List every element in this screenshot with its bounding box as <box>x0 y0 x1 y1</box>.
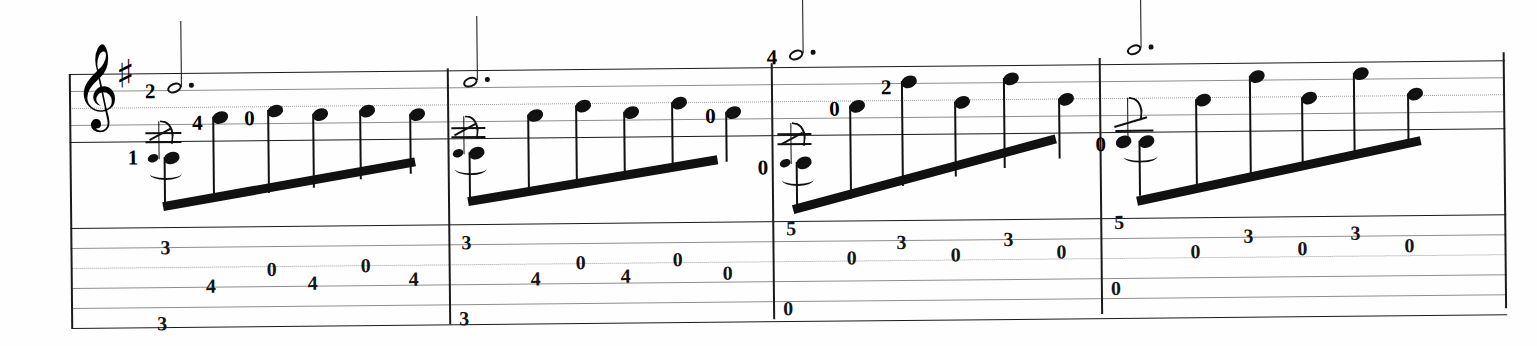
tab-number: 0 <box>673 249 683 269</box>
sharp-icon: ♯ <box>116 54 135 93</box>
tab-number: 3 <box>1350 223 1360 243</box>
tab-line-4 <box>71 274 1507 289</box>
tab-number: 0 <box>361 255 371 275</box>
tab-number: 0 <box>1297 238 1307 258</box>
fingering-m2-n5: 0 <box>705 106 716 127</box>
tab-line-3 <box>71 254 1507 269</box>
beam-m4 <box>1136 136 1421 205</box>
stem-m1-upper <box>180 21 182 87</box>
tab-number: 3 <box>461 232 471 252</box>
stem-m2-main <box>469 152 471 200</box>
tab-number: 0 <box>1404 235 1414 255</box>
staff-line-3 <box>69 94 1505 109</box>
tab-number: 0 <box>1190 241 1200 261</box>
standard-staff <box>69 60 1506 144</box>
treble-clef-icon: 𝄞 <box>75 48 120 122</box>
fingering-m1-n1: 4 <box>192 113 203 134</box>
dot-m2-upper <box>485 77 490 82</box>
tab-number: 0 <box>1111 278 1121 298</box>
tab-number: 0 <box>1056 241 1066 261</box>
sheet-music-page: 𝄞 ♯ 2 1 4 0 3 4 0 4 0 4 3 <box>0 0 1537 346</box>
fingering-m3-grace: 0 <box>758 157 769 178</box>
tab-number: 0 <box>723 263 733 283</box>
fingering-m3-n2: 2 <box>881 77 892 98</box>
tab-number: 4 <box>409 269 419 289</box>
tab-number: 5 <box>1114 212 1124 232</box>
tab-number: 0 <box>950 244 960 264</box>
staff-line-5 <box>69 60 1505 75</box>
beam-m1 <box>162 158 416 212</box>
slur-m2 <box>455 162 487 175</box>
beam-m3 <box>792 135 1057 214</box>
slur-m4 <box>1124 150 1158 163</box>
tab-number: 5 <box>786 218 796 238</box>
tab-number: 3 <box>157 313 167 333</box>
tab-number: 4 <box>206 276 216 296</box>
tab-number: 3 <box>1243 226 1253 246</box>
fingering-m1-upper: 2 <box>145 81 156 102</box>
tab-number: 0 <box>846 247 856 267</box>
tab-number: 0 <box>783 298 793 318</box>
fingering-m4-grace: 0 <box>1095 134 1106 155</box>
stem-m4-upper <box>1140 0 1142 48</box>
stem-m2-upper <box>476 16 478 80</box>
tab-number: 3 <box>896 232 906 252</box>
slur-m1 <box>150 167 182 180</box>
fingering-m3-n1: 0 <box>829 99 840 120</box>
fingering-m1-n2: 0 <box>244 108 255 129</box>
staff-line-4 <box>69 77 1505 92</box>
fingering-m1-grace: 1 <box>127 147 138 168</box>
stem-m3-upper <box>802 0 804 53</box>
slur-m3 <box>782 173 814 186</box>
tab-number: 0 <box>267 259 277 279</box>
beam-m2 <box>467 155 718 206</box>
tab-number: 0 <box>576 252 586 272</box>
notehead-m4-grace <box>1114 133 1133 150</box>
tab-number: 4 <box>308 273 318 293</box>
dot-m1-upper <box>189 83 194 88</box>
tab-number: 3 <box>1003 229 1013 249</box>
staff-system: 𝄞 ♯ 2 1 4 0 3 4 0 4 0 4 3 <box>0 0 1537 346</box>
tab-number: 3 <box>459 308 469 328</box>
dot-m3-upper <box>811 50 816 55</box>
fingering-m3-upper: 4 <box>767 47 778 68</box>
tab-number: 4 <box>621 266 631 286</box>
staff-line-2 <box>69 111 1505 126</box>
tab-number: 3 <box>160 237 170 257</box>
tab-number: 4 <box>531 268 541 288</box>
stem-m1-main <box>164 157 166 205</box>
dot-m4-upper <box>1149 45 1154 50</box>
